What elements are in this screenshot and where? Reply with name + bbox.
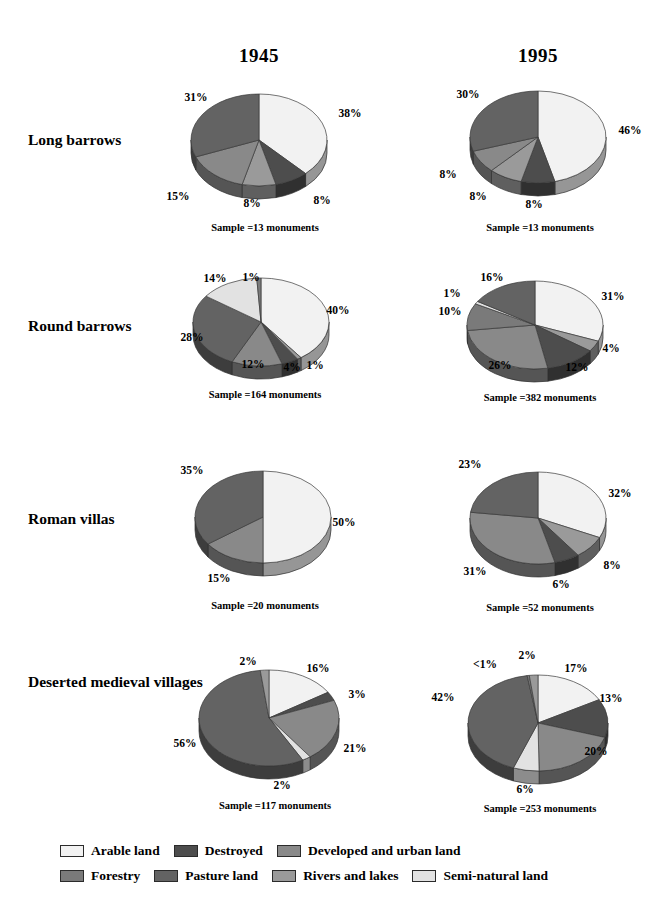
legend-item-pasture-land: Pasture land <box>154 868 258 884</box>
legend-swatch-icon <box>154 870 178 882</box>
pie-value-label: 3% <box>348 688 365 700</box>
sample-size-caption: Sample =13 monuments <box>440 222 640 233</box>
legend-label: Semi-natural land <box>443 868 548 884</box>
legend-item-forestry: Forestry <box>60 868 140 884</box>
pie-value-label: 8% <box>313 194 330 206</box>
pie-chart-roman-villas-1995 <box>428 408 648 628</box>
pie-value-label: 35% <box>181 464 204 476</box>
legend: Arable landDestroyedDeveloped and urban … <box>60 838 660 888</box>
pie-slice-side <box>521 182 555 196</box>
legend-item-rivers-and-lakes: Rivers and lakes <box>272 868 398 884</box>
pie-value-label: 1% <box>306 359 323 371</box>
legend-swatch-icon <box>277 845 301 857</box>
pie-value-label: 4% <box>283 361 300 373</box>
pie-value-label: 20% <box>585 745 608 757</box>
pie-value-label: 31% <box>185 91 208 103</box>
pie-value-label: 30% <box>457 88 480 100</box>
sample-size-caption: Sample =164 monuments <box>165 389 365 400</box>
legend-item-semi-natural-land: Semi-natural land <box>412 868 548 884</box>
pie-slice-pasture-land <box>471 472 538 518</box>
legend-item-destroyed: Destroyed <box>174 843 263 859</box>
pie-value-label: 16% <box>307 662 330 674</box>
pie-value-label: 46% <box>619 124 642 136</box>
pie-value-label: 6% <box>516 783 533 795</box>
pie-value-label: 8% <box>243 197 260 209</box>
sample-size-caption: Sample =52 monuments <box>440 602 640 613</box>
legend-swatch-icon <box>60 870 84 882</box>
pie-value-label: <1% <box>473 658 497 670</box>
pie-value-label: 8% <box>469 190 486 202</box>
legend-label: Forestry <box>91 868 140 884</box>
legend-label: Pasture land <box>185 868 258 884</box>
pie-value-label: 40% <box>327 304 350 316</box>
legend-swatch-icon <box>272 870 296 882</box>
legend-row: ForestryPasture landRivers and lakesSemi… <box>60 863 660 888</box>
pie-value-label: 31% <box>602 290 625 302</box>
pie-value-label: 2% <box>518 649 535 661</box>
pie-value-label: 14% <box>204 272 227 284</box>
pie-value-label: 31% <box>464 565 487 577</box>
pie-value-label: 12% <box>242 358 265 370</box>
sample-size-caption: Sample =382 monuments <box>440 392 640 403</box>
pie-value-label: 10% <box>439 305 462 317</box>
legend-label: Developed and urban land <box>308 843 461 859</box>
legend-swatch-icon <box>60 845 84 857</box>
pie-value-label: 38% <box>339 107 362 119</box>
pie-value-label: 50% <box>333 516 356 528</box>
pie-value-label: 4% <box>602 342 619 354</box>
pie-value-label: 1% <box>443 287 460 299</box>
pie-value-label: 6% <box>552 578 569 590</box>
pie-value-label: 21% <box>344 742 367 754</box>
pie-chart-long-barrows-1995 <box>428 27 648 247</box>
legend-label: Rivers and lakes <box>303 868 398 884</box>
legend-swatch-icon <box>412 870 436 882</box>
pie-value-label: 15% <box>167 190 190 202</box>
sample-size-caption: Sample =117 monuments <box>175 800 375 811</box>
pie-value-label: 1% <box>242 271 259 283</box>
pie-value-label: 15% <box>208 572 231 584</box>
legend-item-developed-and-urban-land: Developed and urban land <box>277 843 461 859</box>
pie-chart-dmv-1995 <box>428 613 648 833</box>
legend-item-arable-land: Arable land <box>60 843 160 859</box>
legend-label: Destroyed <box>205 843 263 859</box>
pie-value-label: 42% <box>432 691 455 703</box>
pie-value-label: 8% <box>525 198 542 210</box>
pie-value-label: 23% <box>459 458 482 470</box>
sample-size-caption: Sample =20 monuments <box>165 600 365 611</box>
legend-label: Arable land <box>91 843 160 859</box>
pie-value-label: 17% <box>565 662 588 674</box>
pie-value-label: 8% <box>603 559 620 571</box>
pie-chart-dmv-1945 <box>159 608 379 828</box>
pie-value-label: 28% <box>181 331 204 343</box>
sample-size-caption: Sample =13 monuments <box>165 222 365 233</box>
figure-land-use-pie-matrix: 19451995Long barrowsRound barrowsRoman v… <box>0 0 668 918</box>
legend-row: Arable landDestroyedDeveloped and urban … <box>60 838 660 863</box>
pie-value-label: 2% <box>239 655 256 667</box>
pie-value-label: 32% <box>609 487 632 499</box>
pie-value-label: 2% <box>273 779 290 791</box>
pie-value-label: 26% <box>489 359 512 371</box>
legend-swatch-icon <box>174 845 198 857</box>
pie-value-label: 8% <box>439 168 456 180</box>
pie-value-label: 12% <box>566 361 589 373</box>
pie-value-label: 56% <box>174 737 197 749</box>
sample-size-caption: Sample =253 monuments <box>440 803 640 814</box>
pie-value-label: 16% <box>481 271 504 283</box>
pie-value-label: 13% <box>600 692 623 704</box>
